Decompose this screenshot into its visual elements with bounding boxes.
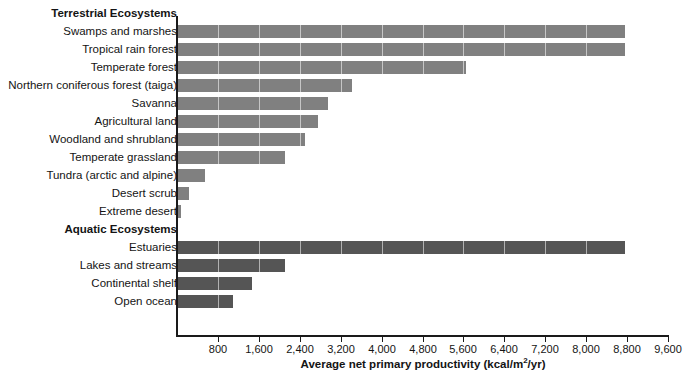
row-label: Tundra (arctic and alpine) [0, 166, 177, 184]
row-label: Lakes and streams [0, 256, 177, 274]
x-tick [382, 337, 383, 342]
bar-tundra-arctic-and-alpine [177, 169, 205, 182]
row-label: Open ocean [0, 292, 177, 310]
group-header-label: Terrestrial Ecosystems [0, 4, 177, 22]
row-label: Extreme desert [0, 202, 177, 220]
x-axis-title-after: /yr) [528, 358, 546, 370]
x-tick-label: 8,000 [572, 343, 600, 356]
row-label: Agricultural land [0, 112, 177, 130]
x-tick-label: 2,400 [286, 343, 314, 356]
gridline [382, 16, 383, 335]
gridline [668, 16, 669, 335]
row-label: Estuaries [0, 238, 177, 256]
x-tick-label: 9,600 [654, 343, 682, 356]
row-label: Swamps and marshes [0, 22, 177, 40]
x-axis-title-before: Average net primary productivity (kcal/m [301, 358, 524, 370]
x-tick [218, 337, 219, 342]
row-label: Savanna [0, 94, 177, 112]
x-tick [300, 337, 301, 342]
gridline [341, 16, 342, 335]
bar-northern-coniferous-forest-taiga [177, 79, 352, 92]
x-tick-label: 800 [209, 343, 227, 356]
gridline [586, 16, 587, 335]
gridline [218, 16, 219, 335]
bar-chart: Terrestrial EcosystemsSwamps and marshes… [0, 0, 683, 376]
bar-open-ocean [177, 295, 233, 308]
group-header-label: Aquatic Ecosystems [0, 220, 177, 238]
x-tick [341, 337, 342, 342]
x-tick [504, 337, 505, 342]
x-tick-label: 8,800 [613, 343, 641, 356]
x-tick-label: 4,800 [409, 343, 437, 356]
x-tick [545, 337, 546, 342]
bar-estuaries [177, 241, 625, 254]
bar-temperate-grassland [177, 151, 285, 164]
row-label: Temperate forest [0, 58, 177, 76]
x-tick [423, 337, 424, 342]
row-label: Woodland and shrubland [0, 130, 177, 148]
row-label: Desert scrub [0, 184, 177, 202]
gridline [627, 16, 628, 335]
row-label: Continental shelf [0, 274, 177, 292]
y-axis-line [176, 16, 178, 336]
bar-desert-scrub [177, 187, 189, 200]
x-tick-label: 7,200 [531, 343, 559, 356]
x-tick [463, 337, 464, 342]
row-label: Temperate grassland [0, 148, 177, 166]
bar-lakes-and-streams [177, 259, 285, 272]
x-tick-label: 3,200 [327, 343, 355, 356]
gridline [300, 16, 301, 335]
x-tick-label: 4,000 [368, 343, 396, 356]
gridline [463, 16, 464, 335]
gridline [545, 16, 546, 335]
x-axis-title: Average net primary productivity (kcal/m… [177, 358, 669, 370]
x-tick [586, 337, 587, 342]
x-tick [627, 337, 628, 342]
x-tick-label: 1,600 [245, 343, 273, 356]
x-tick-label: 5,600 [449, 343, 477, 356]
bar-continental-shelf [177, 277, 252, 290]
gridline [259, 16, 260, 335]
gridline [423, 16, 424, 335]
x-tick [259, 337, 260, 342]
row-label: Tropical rain forest [0, 40, 177, 58]
bar-tropical-rain-forest [177, 43, 625, 56]
x-tick [668, 337, 669, 342]
x-tick-label: 6,400 [490, 343, 518, 356]
gridline [504, 16, 505, 335]
bar-agricultural-land [177, 115, 318, 128]
row-label: Northern coniferous forest (taiga) [0, 76, 177, 94]
bar-swamps-and-marshes [177, 25, 625, 38]
bar-savanna [177, 97, 328, 110]
bar-woodland-and-shrubland [177, 133, 305, 146]
